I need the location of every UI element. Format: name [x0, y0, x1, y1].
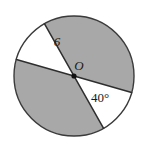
geometry-figure: 6 O 40°	[0, 0, 147, 149]
circle-diagram-svg: 6 O 40°	[0, 0, 147, 149]
center-label-o: O	[74, 58, 84, 73]
radius-label-6: 6	[54, 34, 61, 49]
center-point-dot	[71, 73, 76, 78]
angle-label-40: 40°	[91, 90, 109, 105]
